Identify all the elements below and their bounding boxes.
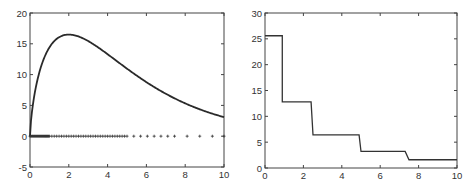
x-tick-label: 6	[378, 170, 383, 181]
y-tick-label: 25	[251, 33, 262, 44]
left-plot: 0246810-505101520	[16, 8, 229, 181]
y-tick-label: 10	[251, 111, 262, 122]
y-tick-label: -5	[19, 162, 27, 173]
x-tick-label: 4	[105, 169, 110, 180]
curve-line	[30, 35, 224, 137]
step-line	[265, 36, 457, 160]
y-tick-label: 0	[22, 131, 27, 142]
figure: 0246810-505101520 0246810051015202530	[0, 0, 473, 187]
x-tick-label: 8	[183, 169, 188, 180]
x-tick-label: 6	[144, 169, 149, 180]
y-tick-label: 20	[251, 59, 262, 70]
y-tick-label: 30	[251, 8, 262, 19]
y-tick-label: 5	[22, 100, 27, 111]
left-axes-frame	[30, 13, 224, 167]
x-tick-label: 0	[27, 169, 32, 180]
x-tick-label: 2	[301, 170, 306, 181]
x-tick-label: 10	[219, 169, 230, 180]
x-tick-label: 2	[66, 169, 71, 180]
y-tick-label: 10	[16, 69, 27, 80]
y-tick-label: 20	[16, 8, 27, 19]
y-tick-label: 0	[257, 163, 262, 174]
y-tick-label: 15	[251, 85, 262, 96]
right-plot: 0246810051015202530	[251, 8, 462, 182]
x-tick-label: 4	[339, 170, 344, 181]
x-tick-label: 8	[416, 170, 421, 181]
y-tick-label: 15	[16, 38, 27, 49]
right-axes-frame	[265, 13, 457, 168]
y-tick-label: 5	[257, 137, 262, 148]
x-tick-label: 10	[452, 170, 463, 181]
x-tick-label: 0	[262, 170, 267, 181]
